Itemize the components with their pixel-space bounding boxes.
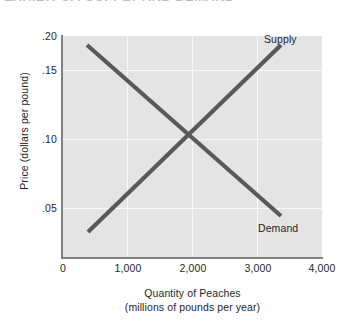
demand-curve-label: Demand (258, 222, 298, 234)
y-axis-label: Price (dollars per pound) (18, 41, 30, 221)
y-tick-005: .05 (5, 202, 57, 214)
y-tick-015: .15 (5, 64, 57, 76)
y-tick-010: .10 (5, 133, 57, 145)
x-tick-1000: 1,000 (98, 262, 158, 274)
x-axis-label: Quantity of Peaches (millions of pounds … (63, 286, 322, 314)
x-axis-label-units: (millions of pounds per year) (63, 300, 322, 314)
supply-curve-label: Supply (264, 33, 297, 45)
x-tick-3000: 3,000 (228, 262, 288, 274)
x-tick-0: 0 (33, 262, 93, 274)
x-tick-4000: 4,000 (292, 262, 342, 274)
supply-demand-chart-figure: .20 .15 .10 .05 0 1,000 2,000 3,000 4,00… (0, 0, 342, 325)
y-tick-020: .20 (5, 30, 57, 42)
x-tick-2000: 2,000 (163, 262, 223, 274)
x-axis-label-main: Quantity of Peaches (63, 286, 322, 300)
